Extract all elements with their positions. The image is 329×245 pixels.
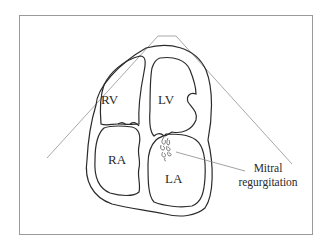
annotation-line-1: Mitral bbox=[232, 163, 304, 175]
mitral-regurgitation-annotation: Mitral regurgitation bbox=[232, 163, 304, 188]
label-ra: RA bbox=[108, 153, 126, 166]
label-la: LA bbox=[165, 172, 182, 185]
label-rv: RV bbox=[101, 93, 118, 106]
label-lv: LV bbox=[158, 93, 174, 106]
regurgitation-jet-icon bbox=[161, 137, 171, 161]
rv-chamber bbox=[100, 56, 145, 125]
heart-diagram bbox=[0, 0, 329, 245]
annotation-line-2: regurgitation bbox=[232, 177, 304, 189]
